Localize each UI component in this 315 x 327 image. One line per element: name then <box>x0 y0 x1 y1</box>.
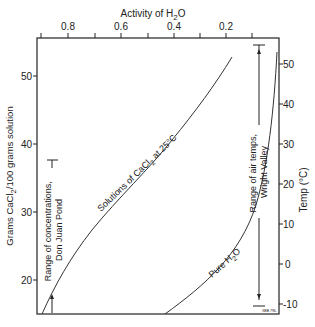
right-tick-label: 40 <box>283 99 295 110</box>
top-axis-tick-labels: 0.8 0.6 0.4 0.2 <box>61 21 233 32</box>
right-tick-label: 20 <box>283 179 295 190</box>
series-cacl2-curve <box>42 57 232 314</box>
top-tick-label: 0.6 <box>114 21 128 32</box>
series-cacl2-label: Solutions of CaCl2 at 25°C <box>95 132 180 215</box>
right-axis-tick-labels: -10 0 10 20 30 40 50 <box>283 59 298 310</box>
top-tick-label: 0.2 <box>219 21 233 32</box>
wright-valley-range-label: Range of air temps, Wright Valley <box>248 131 269 212</box>
top-axis-ticks <box>41 33 252 38</box>
top-tick-label: 0.8 <box>61 21 75 32</box>
left-axis-title: Grams CaCl2/100 grams solution <box>4 106 18 245</box>
left-axis-tick-labels: 20 30 40 50 <box>21 71 33 286</box>
figure-code: XBB 796- <box>262 309 278 313</box>
series-pure-h2o-label: Pure H2O <box>207 246 244 281</box>
plot-frame <box>37 38 279 314</box>
right-tick-label: 10 <box>283 219 295 230</box>
right-axis-title: Temp (°C) <box>298 167 309 212</box>
left-tick-label: 20 <box>21 275 33 286</box>
right-tick-label: 0 <box>285 259 291 270</box>
left-tick-label: 40 <box>21 139 33 150</box>
right-tick-label: 50 <box>283 59 295 70</box>
top-axis-title: Activity of H2O <box>120 8 185 22</box>
don-juan-pond-range-label: Range of concentrations, Don Juan Pond <box>43 179 64 282</box>
left-tick-label: 30 <box>21 207 33 218</box>
left-tick-label: 50 <box>21 71 33 82</box>
right-tick-label: -10 <box>283 299 298 310</box>
right-tick-label: 30 <box>283 139 295 150</box>
top-tick-label: 0.4 <box>167 21 181 32</box>
chart: 0.8 0.6 0.4 0.2 Activity of H2O 20 30 40… <box>0 0 315 327</box>
